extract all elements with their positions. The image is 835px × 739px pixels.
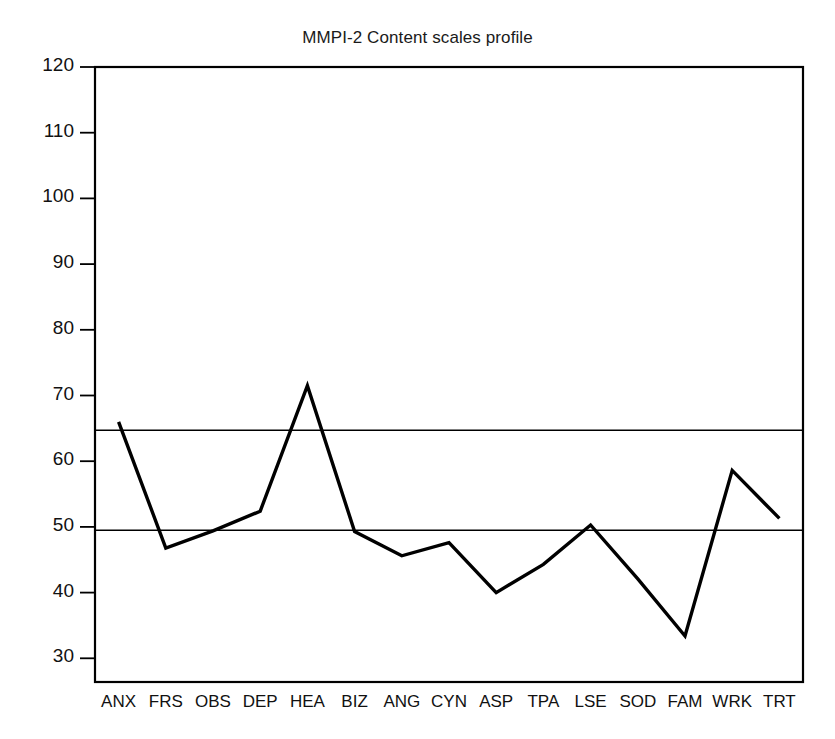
ytick-label-30: 30 (14, 645, 74, 667)
ytick-label-50: 50 (14, 514, 74, 536)
chart-plot-area (0, 0, 835, 739)
ytick-label-100: 100 (14, 185, 74, 207)
ytick-label-40: 40 (14, 580, 74, 602)
xtick-label-trt: TRT (749, 692, 809, 712)
ytick-label-110: 110 (14, 120, 74, 142)
ytick-label-90: 90 (14, 251, 74, 273)
ytick-label-120: 120 (14, 54, 74, 76)
ytick-label-60: 60 (14, 448, 74, 470)
ytick-label-70: 70 (14, 383, 74, 405)
ytick-label-80: 80 (14, 317, 74, 339)
chart-figure: MMPI-2 Content scales profile 120 110 10… (0, 0, 835, 739)
y-axis-ticks (80, 67, 95, 658)
